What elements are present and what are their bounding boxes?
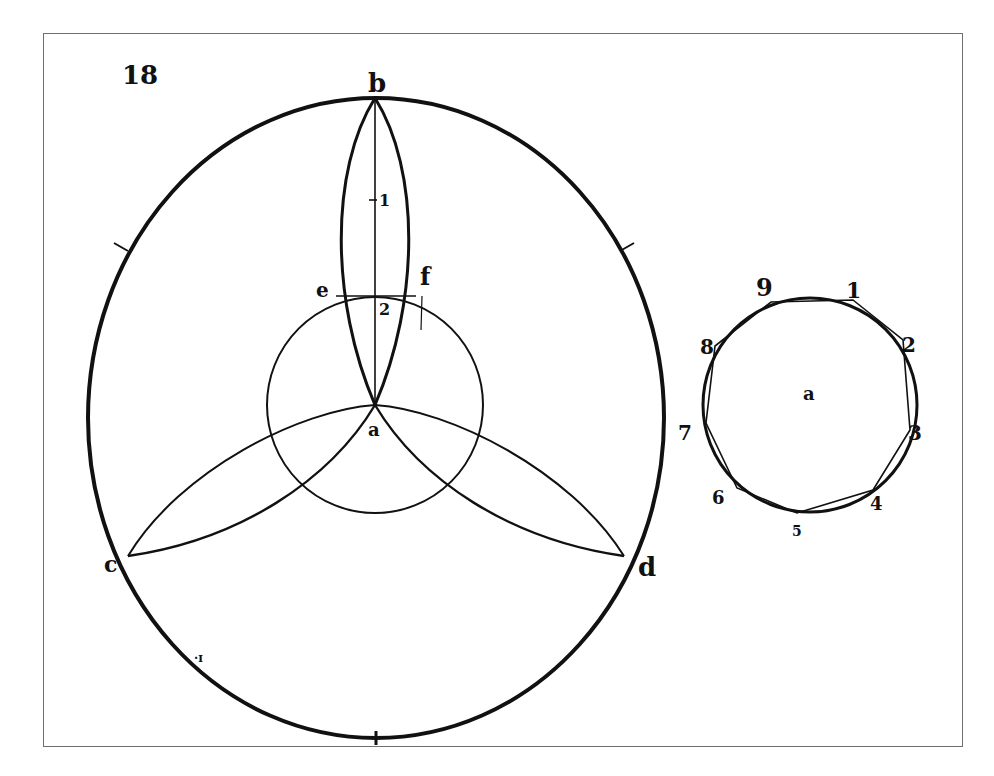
label-2: 2 xyxy=(379,300,390,319)
tick-right xyxy=(620,243,634,251)
vertex-label-1: 1 xyxy=(846,277,861,303)
label-f: f xyxy=(420,262,432,291)
vertex-label-4: 4 xyxy=(870,493,883,514)
vertex-label-6: 6 xyxy=(712,487,725,508)
tick-left xyxy=(114,243,128,251)
label-b: b xyxy=(368,68,386,98)
label-1: 1 xyxy=(379,191,390,210)
vertex-label-8: 8 xyxy=(700,335,714,359)
petal-right-lower xyxy=(375,405,624,556)
geometric-drawing: 18 b c d a e f 1 2 ·ɪ xyxy=(0,0,994,776)
petal-left-upper xyxy=(128,405,375,556)
vertex-label-3: 3 xyxy=(908,421,922,445)
label-e: e xyxy=(316,278,329,302)
nonagon-construction xyxy=(703,298,917,513)
vertex-label-2: 2 xyxy=(902,333,916,357)
figure-number: 18 xyxy=(122,60,158,90)
label-bottom-left: ·ɪ xyxy=(194,651,203,665)
petal-right-upper xyxy=(375,405,624,556)
label-a-large: a xyxy=(368,419,380,440)
label-c: c xyxy=(104,551,117,577)
petal-top-left xyxy=(341,98,375,405)
vertex-label-7: 7 xyxy=(678,421,692,445)
outer-circle xyxy=(88,98,664,738)
petal-top-right xyxy=(375,98,409,405)
vertex-label-5: 5 xyxy=(792,523,802,539)
f-stroke xyxy=(421,296,422,330)
vertex-label-9: 9 xyxy=(756,273,773,302)
label-d: d xyxy=(638,552,656,582)
label-a-nonagon: a xyxy=(803,383,815,404)
petal-left-lower xyxy=(128,405,375,556)
